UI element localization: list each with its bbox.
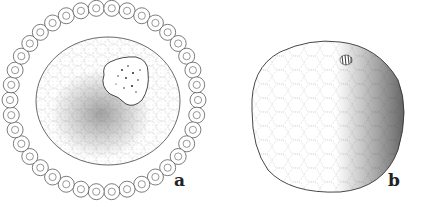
follicle-cell bbox=[3, 107, 19, 123]
panel-label-b: b bbox=[388, 170, 400, 190]
follicle-cell bbox=[88, 0, 104, 16]
follicle-cell bbox=[3, 77, 19, 93]
follicle-cell bbox=[119, 181, 135, 197]
panel-label-a: a bbox=[174, 170, 185, 190]
follicle-cell bbox=[119, 3, 135, 19]
follicle-cell bbox=[185, 62, 201, 78]
follicle-cell bbox=[104, 184, 120, 200]
follicle-cell bbox=[104, 0, 120, 16]
follicle-cell bbox=[134, 176, 150, 192]
follicle-cell bbox=[58, 8, 74, 24]
follicle-cell bbox=[2, 92, 18, 108]
follicle-cell bbox=[189, 77, 205, 93]
figure-canvas bbox=[0, 0, 421, 207]
follicle-cell bbox=[189, 107, 205, 123]
follicle-cell bbox=[73, 181, 89, 197]
follicle-cell bbox=[7, 122, 23, 138]
panel-b bbox=[252, 41, 404, 192]
follicle-cell bbox=[88, 184, 104, 200]
follicle-cell bbox=[73, 3, 89, 19]
follicle-cell bbox=[190, 92, 206, 108]
